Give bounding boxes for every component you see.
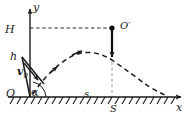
- origin-label: O: [6, 88, 15, 99]
- figure-canvas: [0, 0, 188, 122]
- apex-distance-label: S: [110, 104, 117, 114]
- x-axis-label: x: [176, 102, 182, 113]
- trajectory-path: [33, 52, 167, 96]
- y-axis-label: y: [33, 2, 39, 13]
- initial-velocity-label: v0: [17, 66, 28, 80]
- velocity-subscript: 0: [23, 72, 27, 80]
- horizontal-distance-label: s: [84, 89, 89, 99]
- launch-angle-label: α: [31, 87, 38, 98]
- trajectory-direction-arrow-1: [50, 67, 57, 73]
- drop-point-marker: [109, 25, 114, 30]
- projectile-motion-figure: y H h O α v0 O′ s S x: [0, 0, 188, 122]
- max-height-label: H: [5, 24, 15, 35]
- drop-point-label: O′: [120, 21, 130, 31]
- initial-height-label: h: [10, 51, 17, 62]
